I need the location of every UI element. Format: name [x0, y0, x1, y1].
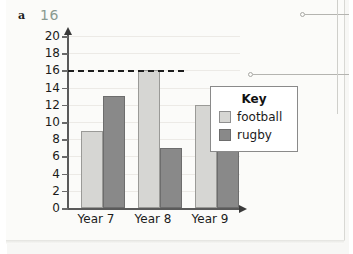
y-tick-label-18: 18 [30, 46, 60, 60]
legend-swatch-rugby-icon [219, 129, 231, 141]
y-tick-20 [62, 36, 68, 38]
y-tick-label-0: 0 [30, 201, 60, 215]
x-axis-line [67, 208, 242, 210]
worksheet-page: a 16 [0, 0, 353, 254]
y-tick-10 [62, 122, 68, 124]
gridline-18 [68, 53, 240, 54]
bar-year8-rugby [160, 148, 182, 208]
y-tick-label-6: 6 [30, 149, 60, 163]
paper-bottom-shadow [6, 240, 344, 244]
x-tick-label-year8: Year 8 [121, 212, 185, 226]
y-tick-6 [62, 156, 68, 158]
y-tick-label-12: 12 [30, 98, 60, 112]
y-tick-label-2: 2 [30, 184, 60, 198]
y-tick-label-10: 10 [30, 115, 60, 129]
y-tick-label-16: 16 [30, 63, 60, 77]
bar-chart: 0 2 4 6 8 10 12 14 16 18 20 Year 7 Year … [22, 30, 240, 222]
y-tick-label-14: 14 [30, 81, 60, 95]
y-tick-label-4: 4 [30, 167, 60, 181]
y-tick-0 [62, 208, 68, 210]
dashed-reference-line-16 [68, 70, 184, 72]
question-letter: a [18, 9, 25, 22]
y-tick-label-20: 20 [30, 29, 60, 43]
chart-legend: Key football rugby [210, 86, 298, 152]
legend-label-football: football [237, 110, 282, 124]
callout-leader-mid [253, 74, 353, 75]
y-tick-label-8: 8 [30, 132, 60, 146]
page-right-margin [349, 0, 353, 254]
y-tick-8 [62, 139, 68, 141]
legend-label-rugby: rugby [237, 128, 272, 142]
callout-leader-top [305, 14, 353, 15]
x-tick-label-year9: Year 9 [178, 212, 242, 226]
y-tick-2 [62, 191, 68, 193]
question-answer-value: 16 [40, 7, 59, 23]
y-axis-arrow-icon [64, 27, 72, 35]
y-tick-12 [62, 105, 68, 107]
y-tick-18 [62, 53, 68, 55]
callout-rule-mid [337, 62, 338, 114]
y-tick-14 [62, 88, 68, 90]
gridline-20 [68, 36, 240, 37]
bar-year7-football [81, 131, 103, 208]
x-tick-label-year7: Year 7 [64, 212, 128, 226]
legend-swatch-football-icon [219, 111, 231, 123]
bar-year8-football [138, 70, 160, 208]
legend-item-football: football [219, 110, 297, 124]
y-axis-labels: 0 2 4 6 8 10 12 14 16 18 20 [22, 30, 60, 210]
y-tick-4 [62, 174, 68, 176]
legend-title: Key [211, 92, 297, 106]
legend-item-rugby: rugby [219, 128, 297, 142]
bar-year7-rugby [103, 96, 125, 208]
